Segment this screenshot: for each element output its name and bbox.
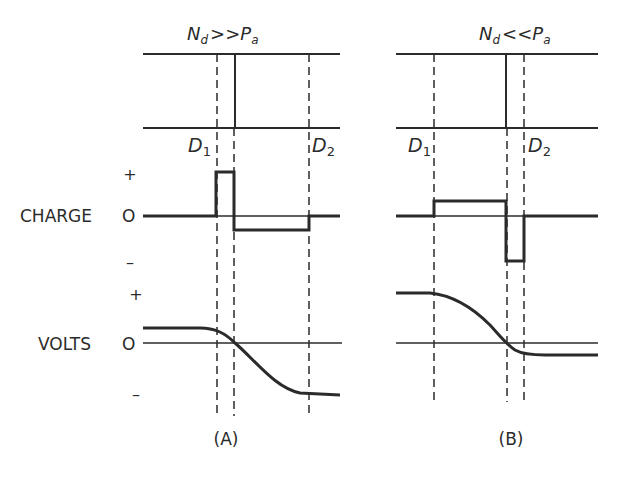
panel-a-charge-curve: [143, 172, 340, 230]
charge-zero-label: O: [122, 206, 135, 226]
volts-minus-label: –: [132, 385, 140, 404]
panel-b-d1-label: D1: [408, 134, 431, 159]
panel-b-condition: Nd<<Pa: [479, 23, 550, 47]
panel-a-condition: Nd>>Pa: [187, 23, 258, 47]
panel-a-d1-label: D1: [188, 134, 211, 159]
volts-zero-label: O: [122, 334, 135, 354]
pn-junction-diagram: Nd>>Pa Nd<<Pa D1 D2 D1 D2 + CHARGE O – +…: [0, 0, 621, 477]
charge-plus-label: +: [123, 165, 136, 184]
panel-b-d2-label: D2: [528, 134, 551, 159]
panel-b-charge-curve: [396, 201, 598, 261]
charge-row-label: CHARGE: [20, 206, 92, 226]
panel-a-caption: (A): [214, 429, 239, 449]
panel-b-volts-curve: [396, 293, 598, 355]
volts-plus-label: +: [129, 285, 142, 304]
panel-a-volts-curve: [143, 328, 340, 395]
panel-b-caption: (B): [499, 429, 524, 449]
volts-row-label: VOLTS: [38, 334, 91, 354]
panel-a-d2-label: D2: [312, 134, 335, 159]
charge-minus-label: –: [126, 253, 134, 272]
